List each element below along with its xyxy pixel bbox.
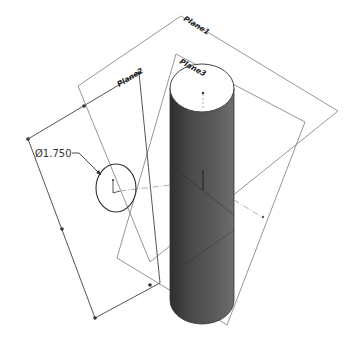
diameter-dimension[interactable]: Ø1.750 bbox=[35, 148, 101, 175]
sketch-circle[interactable] bbox=[96, 164, 136, 212]
plane2-vertex-dot[interactable] bbox=[26, 137, 30, 141]
cad-viewport[interactable]: Ø1.750 Plane1 Plane2 Plane3 bbox=[0, 0, 359, 347]
origin-x-axis-icon bbox=[113, 191, 120, 193]
cylinder-extrude[interactable] bbox=[170, 64, 234, 324]
top-center-point bbox=[202, 92, 204, 94]
center-line bbox=[120, 185, 170, 191]
plane2[interactable] bbox=[26, 71, 160, 320]
plane2-midpoint-dot[interactable] bbox=[82, 104, 86, 108]
center-line bbox=[234, 200, 262, 217]
plane2-midpoint-dot[interactable] bbox=[60, 227, 64, 231]
dimension-text[interactable]: Ø1.750 bbox=[35, 148, 72, 159]
axis-end-point bbox=[262, 216, 264, 218]
plane2-vertex-dot[interactable] bbox=[93, 316, 97, 320]
plane2-midpoint-dot[interactable] bbox=[148, 283, 152, 287]
dimension-leader bbox=[72, 153, 101, 175]
plane1-label[interactable]: Plane1 bbox=[182, 14, 211, 37]
